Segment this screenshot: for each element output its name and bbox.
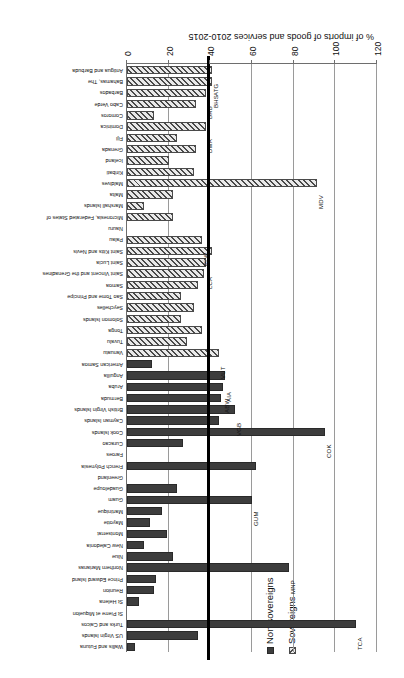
bar xyxy=(127,518,150,526)
bar xyxy=(127,111,154,119)
bar xyxy=(127,213,173,221)
bar xyxy=(127,484,177,492)
category-label: American Samoa xyxy=(82,362,123,368)
category-label: Grenada xyxy=(102,147,123,153)
bar xyxy=(127,247,212,255)
category-axis-line xyxy=(126,64,127,652)
bar xyxy=(127,281,198,289)
category-label: Barbados xyxy=(100,90,123,96)
code-label-vgb: VGB xyxy=(236,422,242,435)
bar-row xyxy=(127,619,377,630)
tick-20 xyxy=(168,60,169,64)
bar-row xyxy=(127,574,377,585)
code-label-tca: TCA xyxy=(357,638,363,651)
tick-80 xyxy=(293,60,294,64)
bar-row xyxy=(127,144,377,155)
bar-row xyxy=(127,76,377,87)
category-label: Marshall Islands xyxy=(84,204,123,210)
axis-title-text: % of imports of goods and services 2010-… xyxy=(188,32,374,42)
bar xyxy=(127,77,212,85)
category-label: Micronesia, Federated States of xyxy=(47,215,123,221)
bar-row xyxy=(127,291,377,302)
bar xyxy=(127,66,212,74)
bar-row xyxy=(127,404,377,415)
category-label: Seychelles xyxy=(97,305,123,311)
bar-row xyxy=(127,155,377,166)
category-label: Sao Tome and Principe xyxy=(67,294,123,300)
category-label: Mayotte xyxy=(104,520,123,526)
category-label: Comoros xyxy=(101,113,123,119)
tick-100 xyxy=(334,60,335,64)
category-label: Palau xyxy=(109,237,123,243)
bar-row xyxy=(127,347,377,358)
bar xyxy=(127,202,144,210)
bar-row xyxy=(127,133,377,144)
bar xyxy=(127,575,156,583)
bar-row xyxy=(127,551,377,562)
category-label: Curacao xyxy=(103,441,123,447)
bar xyxy=(127,145,196,153)
category-label: Vanuatu xyxy=(103,351,123,357)
tick-label-40: 40 xyxy=(206,47,216,56)
category-label: Iceland xyxy=(106,158,123,164)
bar xyxy=(127,156,169,164)
category-label: Malta xyxy=(110,192,123,198)
bar-row xyxy=(127,178,377,189)
axis-title: % of imports of goods and services 2010-… xyxy=(188,32,374,42)
category-label: Niue xyxy=(112,554,123,560)
category-label: Saint Vincent and the Grenadines xyxy=(42,271,123,277)
tick-label-20: 20 xyxy=(165,47,175,56)
bar xyxy=(127,168,194,176)
bar-row xyxy=(127,585,377,596)
category-label: Saint Lucia xyxy=(96,260,123,266)
bar-row xyxy=(127,630,377,641)
category-label: Nauru xyxy=(108,226,123,232)
category-label: French Polynesia xyxy=(81,464,123,470)
category-label: Kiribati xyxy=(107,170,123,176)
bar-row xyxy=(127,257,377,268)
category-label: Saint Kitts and Nevis xyxy=(73,249,123,255)
bar-row xyxy=(127,359,377,370)
category-label: Tuvalu xyxy=(107,339,123,345)
category-label: Anguilla xyxy=(104,373,123,379)
bar xyxy=(127,620,356,628)
bar-row xyxy=(127,494,377,505)
reference-line-40 xyxy=(207,56,210,660)
tick-label-80: 80 xyxy=(290,47,300,56)
bar-row xyxy=(127,166,377,177)
bar-row xyxy=(127,313,377,324)
bar xyxy=(127,122,206,130)
bar xyxy=(127,439,183,447)
bar-row xyxy=(127,200,377,211)
bar xyxy=(127,428,325,436)
category-label: Prince Edward Island xyxy=(72,577,123,583)
bar-row xyxy=(127,87,377,98)
tick-label-0: 0 xyxy=(123,51,133,56)
category-label: Bahamas, The xyxy=(88,79,123,85)
code-label-bhs: BHS xyxy=(213,95,219,108)
code-label-cok: COK xyxy=(326,445,332,459)
code-label-mnp: MNP xyxy=(291,580,297,594)
bar-row xyxy=(127,234,377,245)
category-label: Solomon Islands xyxy=(83,317,123,323)
bar-row xyxy=(127,596,377,607)
bar-row xyxy=(127,393,377,404)
bar xyxy=(127,643,135,651)
category-label: St Helena xyxy=(99,599,123,605)
category-label: Reunion xyxy=(103,588,123,594)
bar xyxy=(127,179,317,187)
bar-row xyxy=(127,427,377,438)
plot-area: Antigua and BarbudaBahamas, TheBarbadosC… xyxy=(127,64,377,652)
bar-row xyxy=(127,381,377,392)
category-label: Faroes xyxy=(106,452,123,458)
bar-row xyxy=(127,540,377,551)
bar xyxy=(127,586,154,594)
code-label-gum: GUM xyxy=(253,511,259,526)
category-label: Bermuda xyxy=(101,396,123,402)
category-label: Wallis and Futuna xyxy=(80,645,123,651)
bar xyxy=(127,631,198,639)
category-label: Martinique xyxy=(98,509,123,515)
category-label: British Virgin Islands xyxy=(74,407,123,413)
bar xyxy=(127,303,194,311)
category-label: Cabo Verde xyxy=(95,102,123,108)
